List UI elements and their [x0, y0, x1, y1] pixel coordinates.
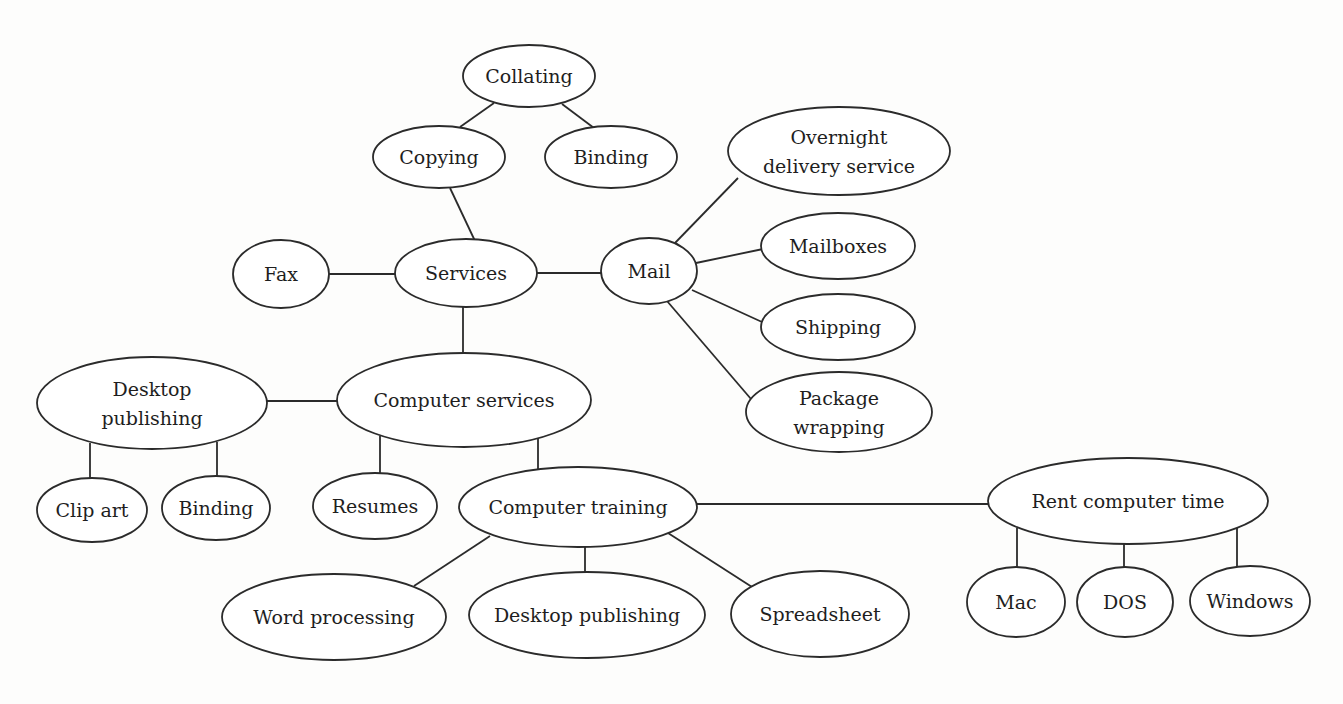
node-label: Binding [574, 146, 649, 168]
node-windows: Windows [1190, 566, 1310, 636]
node-mac: Mac [967, 567, 1065, 637]
edge-copying-to-services [450, 188, 475, 241]
node-label: Resumes [332, 495, 419, 517]
node-fax: Fax [233, 240, 329, 308]
edge-computer-training-to-spreadsheet [668, 533, 752, 587]
node-mail: Mail [601, 238, 697, 304]
node-desktop-publishing-1: Desktoppublishing [37, 357, 267, 449]
edge-collating-to-copying [460, 103, 494, 127]
node-binding-2: Binding [162, 476, 270, 540]
node-word-processing: Word processing [222, 574, 446, 660]
node-label: Windows [1206, 590, 1293, 612]
node-label: Package [799, 387, 879, 409]
node-package-wrapping: Packagewrapping [746, 372, 932, 452]
edge-mail-to-shipping [692, 290, 762, 322]
node-dos: DOS [1077, 567, 1173, 637]
node-label: wrapping [793, 416, 884, 438]
node-label: DOS [1103, 591, 1147, 613]
node-ellipse [37, 357, 267, 449]
node-desktop-publishing-2: Desktop publishing [469, 572, 705, 658]
node-label: Mac [995, 591, 1036, 613]
node-clip-art: Clip art [37, 478, 147, 542]
node-label: Copying [399, 146, 478, 168]
edge-mail-to-mailboxes [696, 249, 763, 263]
node-label: Computer services [374, 389, 555, 411]
edge-computer-training-to-word-processing [414, 536, 490, 586]
node-label: Word processing [253, 606, 415, 628]
node-shipping: Shipping [761, 294, 915, 360]
node-label: Mail [628, 260, 671, 282]
node-collating: Collating [463, 45, 595, 107]
concept-map-diagram: ServicesCopyingCollatingBindingFaxMailOv… [0, 0, 1343, 704]
node-label: Services [425, 262, 507, 284]
node-label: Overnight [791, 126, 888, 148]
node-label: Mailboxes [789, 235, 887, 257]
node-mailboxes: Mailboxes [761, 213, 915, 279]
node-label: Spreadsheet [759, 603, 880, 625]
node-label: Fax [264, 263, 298, 285]
node-label: Computer training [488, 496, 667, 518]
node-label: publishing [101, 407, 202, 429]
node-rent-computer-time: Rent computer time [988, 458, 1268, 544]
node-ellipse [728, 107, 950, 195]
node-overnight: Overnightdelivery service [728, 107, 950, 195]
nodes-layer: ServicesCopyingCollatingBindingFaxMailOv… [37, 45, 1310, 660]
node-label: delivery service [763, 155, 915, 177]
node-binding-1: Binding [545, 126, 677, 188]
edge-mail-to-overnight [675, 178, 738, 243]
node-label: Rent computer time [1032, 490, 1225, 512]
node-label: Collating [485, 65, 573, 87]
edge-mail-to-package-wrapping [667, 301, 751, 399]
node-services: Services [395, 239, 537, 307]
node-computer-services: Computer services [337, 353, 591, 447]
node-label: Shipping [795, 316, 881, 338]
node-label: Clip art [56, 499, 129, 521]
node-label: Binding [179, 497, 254, 519]
node-ellipse [746, 372, 932, 452]
node-label: Desktop publishing [494, 604, 680, 626]
node-resumes: Resumes [313, 473, 437, 539]
node-copying: Copying [373, 126, 505, 188]
edge-collating-to-binding-1 [562, 104, 594, 128]
node-computer-training: Computer training [459, 467, 697, 547]
node-spreadsheet: Spreadsheet [731, 571, 909, 657]
node-label: Desktop [113, 378, 192, 400]
